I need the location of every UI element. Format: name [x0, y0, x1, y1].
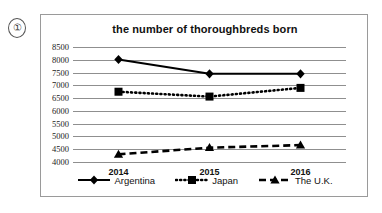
- y-axis-label: 4500: [52, 144, 69, 154]
- legend-item-japan[interactable]: Japan: [175, 174, 238, 186]
- y-axis-label: 8000: [52, 55, 69, 65]
- chart-title: the number of thoroughbreds born: [41, 23, 369, 35]
- data-point-marker-square: [115, 88, 123, 96]
- legend-swatch-diamond-icon: [77, 174, 111, 186]
- data-point-marker-square: [297, 84, 305, 92]
- series-japan: [115, 84, 305, 101]
- series-the-u-k: [114, 141, 305, 158]
- data-point-marker-diamond: [114, 55, 122, 64]
- legend-item-argentina[interactable]: Argentina: [77, 174, 155, 186]
- data-series-layer: [73, 47, 346, 162]
- y-axis-label: 5000: [52, 131, 69, 141]
- legend-swatch-square-icon: [175, 174, 209, 186]
- y-axis-label: 4000: [52, 157, 69, 167]
- data-point-marker-square: [188, 176, 196, 184]
- gridline: [73, 162, 346, 163]
- legend-item-the-u-k[interactable]: The U.K.: [258, 174, 333, 186]
- legend-label: The U.K.: [295, 175, 333, 186]
- question-number-badge: ①: [8, 18, 26, 38]
- y-axis-label: 8500: [52, 42, 69, 52]
- screenshot-root: ① the number of thoroughbreds born 85008…: [0, 0, 382, 213]
- data-point-marker-diamond: [90, 175, 98, 184]
- data-point-marker-diamond: [205, 69, 213, 78]
- data-point-marker-diamond: [296, 69, 304, 78]
- chart-legend: ArgentinaJapanThe U.K.: [41, 174, 369, 186]
- legend-label: Japan: [212, 175, 238, 186]
- y-axis-label: 6500: [52, 93, 69, 103]
- legend-swatch-triangle-icon: [258, 174, 292, 186]
- y-axis-label: 7500: [52, 68, 69, 78]
- series-argentina: [114, 55, 304, 79]
- y-axis-label: 5500: [52, 119, 69, 129]
- legend-label: Argentina: [114, 175, 155, 186]
- y-axis-label: 7000: [52, 80, 69, 90]
- y-axis-label: 6000: [52, 106, 69, 116]
- plot-area: 8500800075007000650060005500500045004000…: [73, 47, 346, 162]
- data-point-marker-square: [206, 93, 214, 101]
- chart-container: the number of thoroughbreds born 8500800…: [40, 14, 368, 197]
